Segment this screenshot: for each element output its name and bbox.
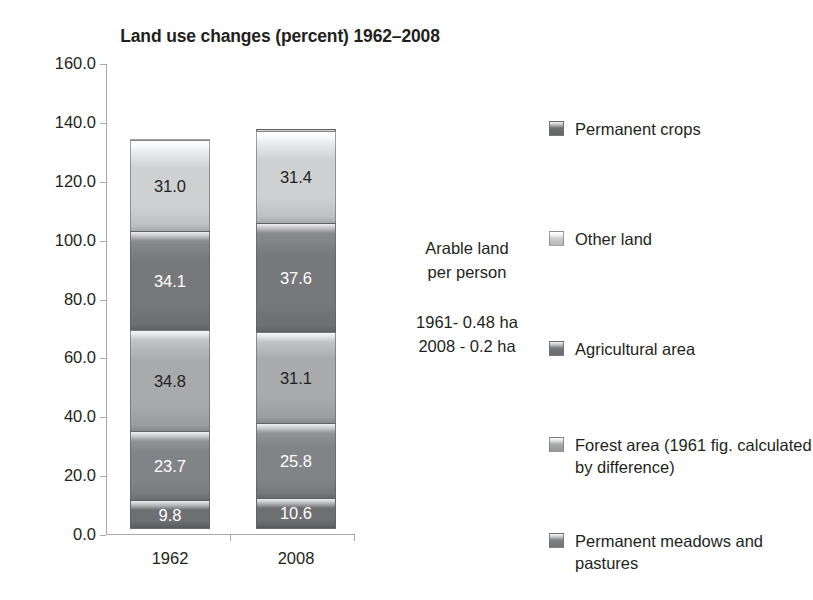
bar-segment-value-label: 9.8 (131, 506, 209, 523)
annotation-heading-line1: Arable land (374, 236, 560, 260)
y-axis-tick-label: 60.0 (10, 348, 96, 367)
legend-swatch-icon (549, 533, 564, 548)
annotation-stat-2008: 2008 - 0.2 ha (374, 334, 560, 358)
y-axis-tick-label: 120.0 (10, 172, 96, 191)
legend-item-label: Permanent meadows and pastures (575, 530, 813, 574)
legend-item-label: Permanent crops (575, 118, 701, 140)
bar-segment-agricultural-area[interactable]: 37.6 (256, 223, 336, 334)
bar-segment-arable-land[interactable]: 10.6 (256, 498, 336, 529)
y-axis-tick-label: 40.0 (10, 407, 96, 426)
annotation-heading-line2: per person (374, 260, 560, 284)
y-axis-tick-label: 20.0 (10, 466, 96, 485)
y-axis-tick-label: 0.0 (10, 525, 96, 544)
bar-segment-permanent-meadows-and-pastures[interactable]: 23.7 (130, 431, 210, 501)
x-axis-tick-mark (354, 534, 355, 541)
legend-item-label: Other land (575, 228, 652, 250)
arable-land-annotation: Arable land per person 1961- 0.48 ha 200… (374, 236, 560, 358)
legend-item-other-land[interactable]: Other land (549, 228, 813, 250)
bar-segment-value-label: 37.6 (257, 270, 335, 287)
chart-title: Land use changes (percent) 1962–2008 (0, 26, 560, 47)
bar-segment-forest-area-1961-fig-calculated-by-diffe[interactable]: 34.8 (130, 330, 210, 432)
stacked-bar-2008[interactable]: 1.131.437.631.125.810.6 (256, 130, 336, 535)
bar-segment-forest-area-1961-fig-calculated-by-diffe[interactable]: 31.1 (256, 332, 336, 424)
legend-swatch-icon (549, 341, 564, 356)
x-axis-tick-mark (230, 534, 231, 541)
bar-segment-agricultural-area[interactable]: 34.1 (130, 231, 210, 331)
legend-item-agricultural-area[interactable]: Agricultural area (549, 338, 813, 360)
bar-segment-value-label: 25.8 (257, 453, 335, 470)
bar-segment-value-label: 34.8 (131, 373, 209, 390)
bar-segment-arable-land[interactable]: 9.8 (130, 500, 210, 529)
legend-item-forest-area-1961-fig-calculated-by-diffe[interactable]: Forest area (1961 fig. calculated by dif… (549, 434, 813, 478)
bar-segment-value-label: 31.1 (257, 370, 335, 387)
bar-segment-permanent-meadows-and-pastures[interactable]: 25.8 (256, 423, 336, 499)
annotation-spacer (374, 284, 560, 310)
legend-swatch-icon (549, 437, 564, 452)
legend-item-label: Agricultural area (575, 338, 695, 360)
y-axis-tick-label: 140.0 (10, 113, 96, 132)
bar-segment-value-label: 23.7 (131, 458, 209, 475)
legend-item-permanent-meadows-and-pastures[interactable]: Permanent meadows and pastures (549, 530, 813, 574)
legend-swatch-icon (549, 231, 564, 246)
x-axis-tick-label-2008: 2008 (236, 549, 356, 568)
land-use-stacked-bar-chart: Land use changes (percent) 1962–2008 160… (0, 0, 813, 600)
legend-item-permanent-crops[interactable]: Permanent crops (549, 118, 813, 140)
bar-segment-other-land[interactable]: 31.0 (130, 140, 210, 231)
stacked-bar-1962[interactable]: 0.731.034.134.823.79.8 (130, 140, 210, 535)
y-axis-tick-label: 80.0 (10, 290, 96, 309)
bar-segment-other-land[interactable]: 31.4 (256, 131, 336, 223)
legend-item-label: Forest area (1961 fig. calculated by dif… (575, 434, 813, 478)
x-axis-tick-label-1962: 1962 (110, 549, 230, 568)
y-axis-tick-label: 160.0 (10, 54, 96, 73)
bar-segment-value-label: 10.6 (257, 505, 335, 522)
bar-segment-value-label: 31.0 (131, 178, 209, 195)
bar-segment-value-label: 34.1 (131, 272, 209, 289)
annotation-stat-1961: 1961- 0.48 ha (374, 310, 560, 334)
y-axis-tick-mark (100, 535, 106, 536)
y-axis-tick-label: 100.0 (10, 231, 96, 250)
plot-area: 0.731.034.134.823.79.8 1.131.437.631.125… (106, 64, 354, 535)
legend-swatch-icon (549, 121, 564, 136)
bar-segment-value-label: 31.4 (257, 169, 335, 186)
